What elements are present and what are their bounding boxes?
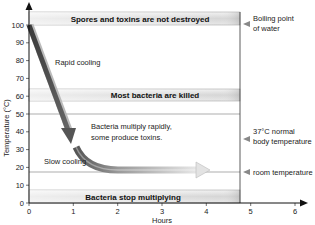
y-tick-30: 30 [16,145,24,154]
x-tick-2: 2 [116,207,120,216]
x-axis-arrow-icon [300,200,308,207]
band-most-killed-label: Most bacteria are killed [111,91,200,100]
y-axis-arrow-icon [26,2,33,10]
ref-label-room: room temperature [243,168,313,177]
y-tick-80: 80 [16,56,24,65]
room-temp-pointer-icon [243,169,250,175]
band-spores: Spores and toxins are not destroyed [29,12,240,25]
x-ticks: 0 1 2 3 4 5 6 [27,203,297,216]
rapid-cooling-arrowhead-icon [61,128,76,144]
x-tick-4: 4 [204,207,208,216]
rapid-cooling-curve [29,25,76,144]
y-tick-40: 40 [16,127,24,136]
bacteria-multiply-line1: Bacteria multiply rapidly, [91,122,172,131]
bacteria-multiply-line2: some produce toxins. [91,133,162,142]
x-axis-label: Hours [152,216,172,225]
y-axis-label: Temperature (°C) [2,99,11,157]
x-tick-3: 3 [160,207,164,216]
ref-label-boiling: Boiling point of water [243,14,295,33]
room-temp-label: room temperature [253,168,313,177]
y-tick-20: 20 [16,163,24,172]
y-tick-60: 60 [16,92,24,101]
x-tick-1: 1 [71,207,75,216]
band-spores-label: Spores and toxins are not destroyed [71,15,210,24]
body-temp-label-line1: 37°C normal [253,127,295,136]
x-tick-6: 6 [293,207,297,216]
x-tick-5: 5 [249,207,253,216]
y-tick-10: 10 [16,181,24,190]
boiling-label-line2: of water [253,24,280,33]
band-stop-label: Bacteria stop multiplying [85,193,181,202]
boiling-label-line1: Boiling point [253,14,295,23]
y-ticks: 0 10 20 30 40 50 60 70 80 90 100 [11,21,29,208]
y-tick-0: 0 [20,199,24,208]
y-tick-70: 70 [16,74,24,83]
x-tick-0: 0 [27,207,31,216]
ref-label-body: 37°C normal body temperature [243,127,312,146]
boiling-pointer-icon [243,21,250,27]
y-tick-90: 90 [16,38,24,47]
y-tick-50: 50 [16,110,24,119]
slow-cooling-arrowhead-icon [196,162,210,178]
slow-cooling-label: Slow cooling [44,157,86,166]
band-stop-multiplying: Bacteria stop multiplying [29,190,240,203]
y-tick-100: 100 [11,21,24,30]
slow-cooling-curve [76,147,210,178]
body-temp-label-line2: body temperature [253,137,312,146]
body-temp-pointer-icon [243,136,250,142]
temperature-chart: Spores and toxins are not destroyed Most… [0,0,315,225]
rapid-cooling-label: Rapid cooling [55,58,100,67]
